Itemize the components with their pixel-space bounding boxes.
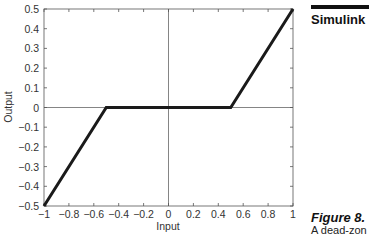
x-tick-label: 0.2 — [186, 208, 201, 220]
section-title: Simulink — [311, 12, 365, 27]
dead-zone-chart: −1−0.8−0.6−0.4−0.200.20.40.60.81 0.50.40… — [0, 0, 300, 238]
y-tick-labels: 0.50.40.30.20.10−0.1−0.2−0.3−0.4−0.5 — [18, 3, 39, 212]
y-tick-label: 0.1 — [24, 82, 39, 94]
figure-label: Figure 8. — [311, 210, 365, 225]
y-tick-label: 0 — [33, 102, 39, 114]
y-tick-label: 0.5 — [24, 3, 39, 15]
x-tick-label: −1 — [38, 208, 50, 220]
y-tick-label: 0.4 — [24, 23, 39, 35]
y-tick-label: −0.3 — [18, 161, 39, 173]
section-rule — [311, 5, 369, 9]
y-tick-label: 0.2 — [24, 62, 39, 74]
x-tick-label: 0.8 — [261, 208, 276, 220]
x-tick-label: 0.4 — [211, 208, 226, 220]
x-tick-labels: −1−0.8−0.6−0.4−0.200.20.40.60.81 — [38, 208, 296, 220]
figure-caption: A dead-zon — [311, 224, 367, 236]
x-tick-label: −0.6 — [83, 208, 104, 220]
y-tick-label: −0.1 — [18, 121, 39, 133]
x-tick-label: −0.4 — [108, 208, 129, 220]
x-tick-label: 0 — [166, 208, 172, 220]
x-axis-label: Input — [156, 220, 179, 232]
x-tick-label: −0.8 — [59, 208, 80, 220]
x-tick-label: 1 — [290, 208, 296, 220]
y-axis-label: Output — [2, 91, 14, 123]
y-tick-label: −0.5 — [18, 200, 39, 212]
x-tick-label: 0.6 — [236, 208, 251, 220]
x-tick-label: −0.2 — [133, 208, 154, 220]
y-tick-label: −0.2 — [18, 141, 39, 153]
y-tick-label: −0.4 — [18, 180, 39, 192]
y-tick-label: 0.3 — [24, 42, 39, 54]
